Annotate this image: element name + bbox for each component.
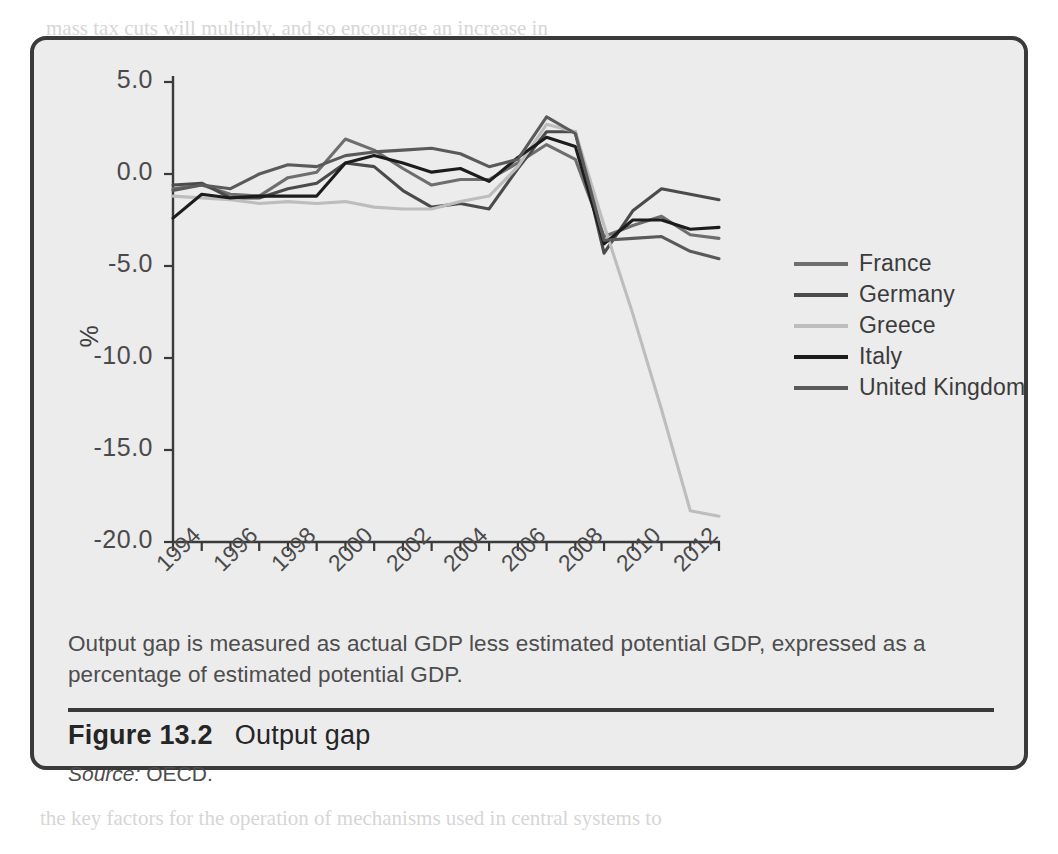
legend-swatch [794,386,848,390]
figure-number: Figure 13.2 [68,720,213,751]
legend-label: Greece [859,312,936,339]
output-gap-chart: 5.00.0-5.0-10.0-15.0-20.0 19941996199820… [34,40,1032,618]
series-line-italy [173,137,719,244]
series-line-united-kingdom [173,117,719,259]
figure-box: 5.00.0-5.0-10.0-15.0-20.0 19941996199820… [30,36,1028,770]
chart-series [173,117,719,516]
legend-item-italy[interactable]: Italy [794,341,1025,372]
legend-swatch [794,324,848,328]
source-value: OECD. [140,762,212,785]
legend-label: France [859,250,932,277]
figure-note: Output gap is measured as actual GDP les… [68,628,986,690]
chart-legend: FranceGermanyGreeceItalyUnited Kingdom [794,248,1025,403]
legend-label: United Kingdom [859,374,1025,401]
figure-caption: Figure 13.2 Output gap [68,720,370,751]
legend-item-france[interactable]: France [794,248,1025,279]
figure-title: Output gap [235,720,371,751]
caption-divider [68,708,994,712]
legend-item-greece[interactable]: Greece [794,310,1025,341]
legend-swatch [794,355,848,359]
legend-swatch [794,293,848,297]
y-tick-label: -20.0 [33,525,153,554]
y-axis-title: % [75,325,104,347]
legend-item-united-kingdom[interactable]: United Kingdom [794,372,1025,403]
y-tick-label: 5.0 [33,65,153,94]
legend-label: Italy [859,343,902,370]
series-line-france [173,139,719,238]
y-tick-label: -5.0 [33,249,153,278]
legend-label: Germany [859,281,955,308]
chart-axes [164,76,720,551]
y-tick-label: -15.0 [33,433,153,462]
bleed-line: the key factors for the operation of mec… [40,806,662,831]
legend-item-germany[interactable]: Germany [794,279,1025,310]
figure-source: Source: OECD. [68,762,213,786]
source-word: Source: [68,762,140,785]
y-tick-label: 0.0 [33,157,153,186]
legend-swatch [794,262,848,266]
